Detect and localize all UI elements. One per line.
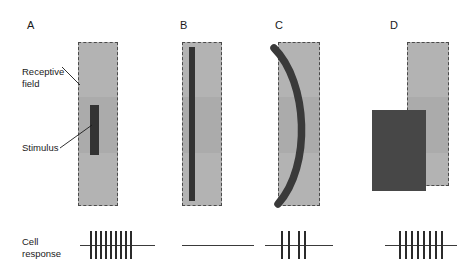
spike (125, 231, 127, 259)
spike (435, 231, 437, 259)
response-baseline-d (385, 245, 457, 246)
spike (115, 231, 117, 259)
spike (105, 231, 107, 259)
spike (288, 231, 290, 259)
spike (120, 231, 122, 259)
spike (100, 231, 102, 259)
spike (405, 231, 407, 259)
panel-letter-c: C (275, 20, 283, 31)
panel-letter-d: D (390, 20, 398, 31)
cell-response-trace-d (385, 226, 457, 266)
spike (304, 231, 306, 259)
spike (429, 231, 431, 259)
cell-response-trace-b (182, 226, 254, 266)
receptive-field-b (182, 42, 222, 206)
panel-letter-b: B (180, 20, 188, 31)
response-baseline-b (182, 245, 254, 246)
cell-response-trace-c (265, 226, 333, 266)
spike (95, 231, 97, 259)
receptive-field-band-c (279, 97, 319, 153)
panel-letter-a: A (27, 20, 35, 31)
spike (110, 231, 112, 259)
spike (399, 231, 401, 259)
spike (411, 231, 413, 259)
spike (298, 231, 300, 259)
stimulus-bar-b (189, 47, 195, 201)
spike (441, 231, 443, 259)
cell-response-label: Cell response (22, 236, 78, 260)
cell-response-trace-a (80, 226, 155, 266)
spike (130, 231, 132, 259)
spike (417, 231, 419, 259)
spike (423, 231, 425, 259)
spike (90, 231, 92, 259)
receptive-field-callout-label: Receptive field (22, 66, 80, 90)
spike (281, 231, 283, 259)
stimulus-bar-a (90, 105, 99, 155)
receptive-field-figure: A B C D Receptive field Stimulus Cell re… (0, 0, 470, 276)
stimulus-square-d (372, 110, 426, 191)
stimulus-callout-label: Stimulus (22, 142, 80, 154)
receptive-field-c (278, 42, 320, 206)
